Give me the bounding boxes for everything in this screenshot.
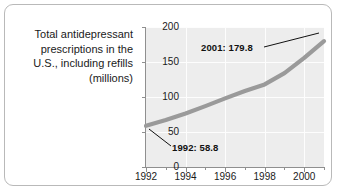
x-tick-label: 1992 — [126, 172, 166, 182]
x-tick-label: 1998 — [245, 172, 285, 182]
x-tick-mark — [186, 168, 187, 172]
x-tick-mark-minor — [284, 168, 285, 170]
annotation-2001: 2001: 179.8 — [201, 43, 253, 53]
x-tick-label: 1996 — [205, 172, 245, 182]
caption-line-2: prescriptions in the — [15, 42, 133, 57]
x-tick-label: 2000 — [284, 172, 324, 182]
x-tick-label: 1994 — [166, 172, 206, 182]
x-tick-mark-minor — [245, 168, 246, 170]
x-tick-mark-minor — [205, 168, 206, 170]
caption-line-3: U.S., including refills — [15, 56, 133, 71]
x-tick-mark-minor — [166, 168, 167, 170]
x-tick-mark-minor — [324, 168, 325, 170]
chart-caption: Total antidepressant prescriptions in th… — [15, 27, 133, 85]
x-tick-mark — [225, 168, 226, 172]
annotation-1992: 1992: 58.8 — [172, 143, 218, 153]
x-tick-mark — [304, 168, 305, 172]
caption-line-1: Total antidepressant — [15, 27, 133, 42]
x-tick-mark — [265, 168, 266, 172]
caption-line-4: (millions) — [15, 71, 133, 86]
chart-figure: Total antidepressant prescriptions in th… — [4, 4, 332, 186]
x-tick-mark — [146, 168, 147, 172]
